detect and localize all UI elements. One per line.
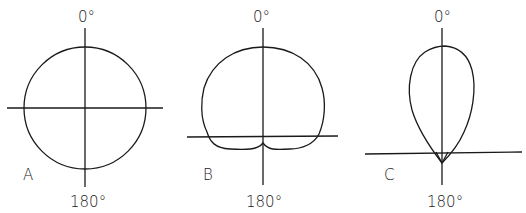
- polar-patterns-diagram: 0° 180° A 0° 180° B 0° 180° C: [0, 0, 526, 213]
- panel-b: 0° 180° B: [187, 8, 338, 211]
- panel-b-top-label: 0°: [253, 8, 270, 26]
- panel-a: 0° 180° A: [7, 8, 163, 211]
- panel-c-horizontal-axis: [365, 152, 522, 154]
- panel-a-top-label: 0°: [78, 8, 95, 26]
- panel-a-bottom-label: 180°: [70, 193, 106, 211]
- panel-c-bottom-label: 180°: [427, 193, 463, 211]
- panel-c-letter: C: [384, 166, 394, 184]
- panel-b-letter: B: [203, 166, 213, 184]
- panel-a-letter: A: [23, 166, 33, 184]
- panel-b-bottom-label: 180°: [246, 193, 282, 211]
- panel-c-top-label: 0°: [434, 8, 451, 26]
- panel-b-horizontal-axis: [187, 136, 338, 137]
- panel-c: 0° 180° C: [365, 8, 522, 211]
